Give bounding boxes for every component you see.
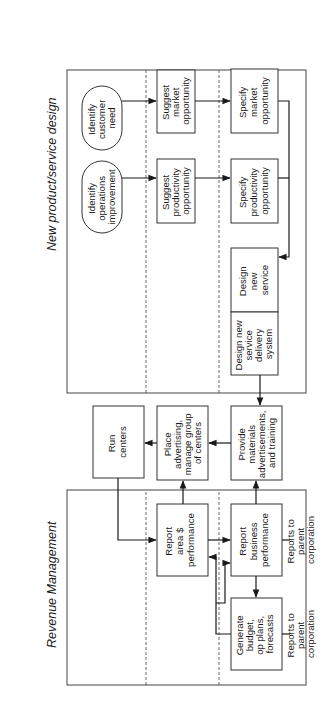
node-generate-budget: Generate budget, op plans, forecasts bbox=[231, 598, 282, 670]
node-identify-customer-need: Identify customer need bbox=[82, 86, 122, 150]
process-diagram: New product/service design Revenue Manag… bbox=[0, 0, 330, 723]
node-design-new-service: Design new service bbox=[231, 248, 278, 312]
node-suggest-market-opportunity: Suggest market opportunity bbox=[157, 70, 195, 133]
lane-title-new-product: New product/service design bbox=[45, 97, 59, 251]
node-identify-operations-improvement: Identify operations improvement bbox=[82, 161, 122, 233]
node-specify-productivity-opportunity: Specify productivity opportunity bbox=[231, 159, 278, 223]
lane-title-revenue: Revenue Management bbox=[45, 521, 59, 648]
node-report-area-performance: Report area $ performance bbox=[157, 504, 208, 576]
svg-text:Suggest productivity: Suggest productivity opportunity bbox=[160, 165, 191, 216]
node-design-new-service-delivery-system: Design new service delivery system bbox=[231, 312, 278, 375]
node-report-business-performance: Report business performance bbox=[231, 504, 282, 576]
node-run-centers: Run centers bbox=[93, 406, 144, 478]
node-suggest-productivity-opportunity: Suggest productivity opportunity bbox=[157, 159, 195, 223]
node-specify-market-opportunity: Specify market opportunity bbox=[231, 69, 278, 133]
svg-text:Generate budget, o: Generate budget, op plans, forecasts bbox=[234, 613, 275, 656]
node-place-advertising: Place advertising, manage group of cente… bbox=[157, 406, 208, 480]
node-provide-materials: Provide materials advertisements, and tr… bbox=[231, 406, 282, 480]
